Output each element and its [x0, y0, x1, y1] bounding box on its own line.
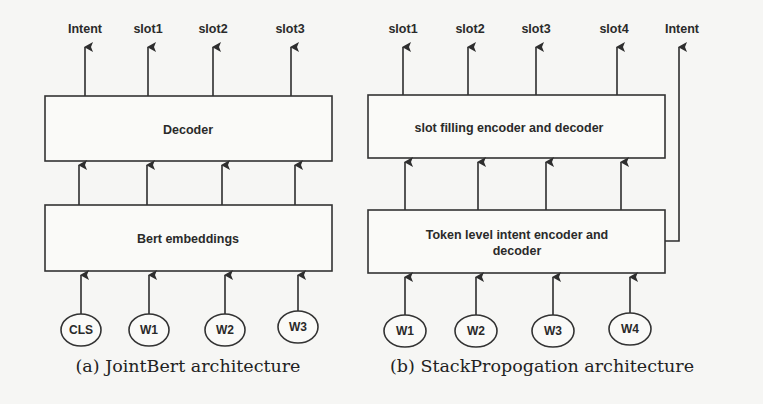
- input-node-w2: W2: [455, 315, 497, 347]
- bert-embeddings-label: Bert embeddings: [137, 232, 239, 246]
- output-label-slot3: slot3: [275, 22, 304, 36]
- svg-text:W2: W2: [467, 324, 485, 338]
- token-level-intent-label-line2: decoder: [493, 244, 542, 258]
- output-label-slot3: slot3: [521, 22, 550, 36]
- input-arrows: [81, 275, 298, 315]
- svg-text:W3: W3: [289, 320, 307, 334]
- output-label-slot2: slot2: [455, 22, 484, 36]
- input-node-w4: W4: [609, 313, 651, 345]
- slot-filling-label: slot filling encoder and decoder: [415, 121, 604, 135]
- output-label-slot4: slot4: [599, 22, 628, 36]
- output-label-intent: Intent: [68, 22, 103, 36]
- svg-text:W2: W2: [216, 323, 234, 337]
- input-node-w3: W3: [278, 311, 318, 343]
- input-node-w1: W1: [384, 315, 426, 347]
- architecture-figure: Intent slot1 slot2 slot3 Decoder Bert em…: [0, 0, 763, 404]
- middle-arrows: [79, 165, 295, 205]
- output-arrows: [85, 47, 291, 97]
- input-arrows: [405, 277, 630, 315]
- svg-text:W4: W4: [621, 322, 639, 336]
- output-label-intent: Intent: [665, 22, 700, 36]
- input-node-cls: CLS: [61, 314, 101, 346]
- input-node-w2: W2: [205, 314, 245, 346]
- svg-text:W3: W3: [544, 324, 562, 338]
- input-node-w3: W3: [532, 315, 574, 347]
- decoder-label: Decoder: [163, 123, 213, 137]
- input-node-w1: W1: [129, 314, 169, 346]
- middle-arrows: [405, 162, 621, 210]
- jointbert-diagram: Intent slot1 slot2 slot3 Decoder Bert em…: [45, 22, 332, 376]
- output-label-slot2: slot2: [198, 22, 227, 36]
- svg-text:W1: W1: [140, 323, 158, 337]
- svg-text:W1: W1: [396, 324, 414, 338]
- caption-jointbert: (a) JointBert architecture: [76, 356, 301, 376]
- svg-text:CLS: CLS: [69, 323, 93, 337]
- stackpropogation-diagram: slot1 slot2 slot3 slot4 Intent slot fill…: [368, 22, 700, 376]
- caption-stackpropogation: (b) StackPropogation architecture: [390, 356, 694, 376]
- output-label-slot1: slot1: [133, 22, 162, 36]
- token-level-intent-label-line1: Token level intent encoder and: [426, 228, 608, 242]
- output-label-slot1: slot1: [388, 22, 417, 36]
